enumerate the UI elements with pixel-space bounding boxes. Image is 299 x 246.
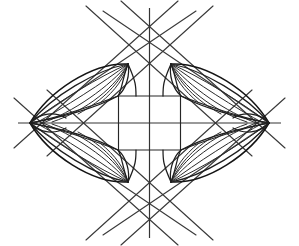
axis-group — [18, 8, 281, 238]
petal-upper-right-rib-2 — [171, 64, 265, 124]
petal-upper-left-rib-2 — [34, 64, 128, 124]
petal-lower-right-rib-2 — [171, 122, 265, 182]
figure-canvas — [0, 0, 299, 246]
geometric-figure — [0, 0, 299, 246]
petal-lower-left-rib-2 — [34, 122, 128, 182]
